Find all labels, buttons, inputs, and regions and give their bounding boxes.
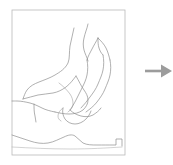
sketch-map-panel <box>0 0 138 165</box>
arrow-head <box>161 65 172 78</box>
sketch-background <box>0 0 138 165</box>
sketch-map-svg <box>0 0 138 165</box>
arrow-panel <box>138 0 173 165</box>
right-arrow-icon <box>143 61 173 81</box>
figure-root <box>0 0 173 165</box>
